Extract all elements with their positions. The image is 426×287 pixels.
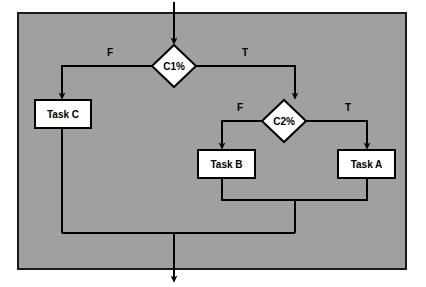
- task-node-task-b[interactable]: Task B: [198, 150, 255, 178]
- task-b-label: Task B: [210, 159, 242, 170]
- edge-label-c1-false: F: [107, 47, 113, 58]
- task-node-task-c[interactable]: Task C: [35, 100, 91, 128]
- decision-c1-label: C1%: [163, 61, 185, 72]
- edge-label-c1-true: T: [242, 47, 248, 58]
- flowchart-diagram: C1% C2% Task C Task B Task A F T F T: [0, 0, 426, 287]
- task-a-label: Task A: [351, 159, 383, 170]
- task-node-task-a[interactable]: Task A: [338, 150, 395, 178]
- decision-c2-label: C2%: [273, 116, 295, 127]
- flowchart-canvas: C1% C2% Task C Task B Task A F T F T: [0, 0, 426, 287]
- task-c-label: Task C: [47, 109, 79, 120]
- edge-label-c2-true: T: [345, 102, 351, 113]
- diagram-frame: [18, 13, 406, 269]
- edge-label-c2-false: F: [237, 102, 243, 113]
